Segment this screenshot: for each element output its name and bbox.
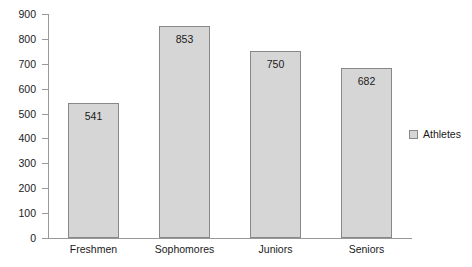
y-tick-label: 200 [0, 183, 36, 194]
bar-chart: 0100200300400500600700800900 54185375068… [0, 0, 472, 267]
y-tick-label: 900 [0, 9, 36, 20]
bar-juniors: 750 [250, 51, 301, 238]
legend-swatch-athletes [409, 130, 418, 139]
legend: Athletes [409, 129, 461, 140]
y-tick-label: 700 [0, 59, 36, 70]
y-tick [42, 238, 48, 239]
bar-seniors: 682 [341, 68, 392, 238]
bar-value-label: 750 [251, 59, 300, 70]
x-axis-label-seniors: Seniors [321, 243, 412, 256]
y-tick-label: 400 [0, 133, 36, 144]
y-tick-label: 600 [0, 83, 36, 94]
x-axis-line [48, 238, 412, 239]
y-tick-label: 300 [0, 158, 36, 169]
bar-value-label: 541 [69, 111, 118, 122]
bar-sophomores: 853 [159, 26, 210, 238]
y-tick-label: 800 [0, 34, 36, 45]
bar-value-label: 682 [342, 76, 391, 87]
x-axis-label-juniors: Juniors [230, 243, 321, 256]
legend-label-athletes: Athletes [423, 129, 461, 140]
y-tick-label: 0 [0, 233, 36, 244]
x-axis-label-sophomores: Sophomores [139, 243, 230, 256]
y-tick-label: 500 [0, 108, 36, 119]
bar-freshmen: 541 [68, 103, 119, 238]
bar-value-label: 853 [160, 34, 209, 45]
x-axis-label-freshmen: Freshmen [48, 243, 139, 256]
bars-layer: 541853750682 [48, 14, 412, 238]
y-tick-label: 100 [0, 208, 36, 219]
